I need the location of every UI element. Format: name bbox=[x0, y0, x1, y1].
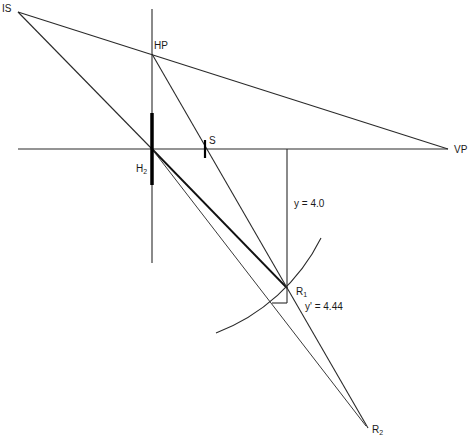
label-s: S bbox=[209, 135, 216, 146]
label-is: IS bbox=[2, 3, 12, 14]
is-vp-line bbox=[18, 12, 448, 149]
h2-r2-line bbox=[152, 149, 366, 426]
label-y-prime-value: y' = 4.44 bbox=[305, 301, 343, 312]
perspective-diagram: IS HP VP S H2 R1 R2 y = 4.0 y' = 4.44 bbox=[0, 0, 476, 439]
label-r1-main: R bbox=[296, 286, 303, 297]
label-r2: R2 bbox=[372, 424, 383, 436]
label-hp: HP bbox=[154, 40, 168, 51]
label-h2-main: H bbox=[136, 163, 143, 174]
label-h2-sub: 2 bbox=[143, 168, 147, 175]
label-y-value: y = 4.0 bbox=[294, 198, 325, 209]
label-r1: R1 bbox=[296, 286, 307, 298]
label-r2-sub: 2 bbox=[379, 429, 383, 436]
hp-r2-line bbox=[152, 54, 368, 428]
label-h2: H2 bbox=[136, 163, 147, 175]
label-r2-main: R bbox=[372, 424, 379, 435]
label-vp: VP bbox=[454, 144, 468, 155]
is-h2-line bbox=[18, 12, 152, 149]
label-r1-sub: 1 bbox=[303, 291, 307, 298]
